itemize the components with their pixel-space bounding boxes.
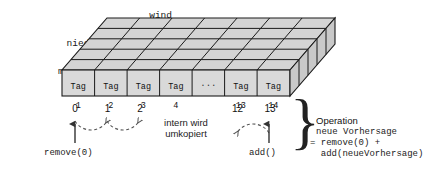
index-label-1: 1 (98, 103, 118, 114)
cell-label-line1: Tag (168, 82, 183, 92)
operation-code-line-3: add(neueVorhersage) (310, 149, 423, 161)
cell-label-line1: Tag (103, 82, 118, 92)
shift-arcs-right (237, 124, 269, 133)
operation-code-line-1: neue Vorhersage (316, 127, 397, 139)
slab-top-face (62, 18, 335, 70)
shift-arcs-left (75, 121, 139, 130)
cell-label-line1: Tag (233, 82, 248, 92)
diagram-canvas: wind luft niederschlag maxTemp minTemp (0, 0, 435, 170)
operation-code-line-2: = remove(0) + (310, 138, 380, 150)
index-label-0: 0 (65, 103, 85, 114)
operation-title: Operation (316, 115, 358, 126)
internal-copy-note: intern wird umkopiert (145, 117, 227, 139)
shift-arc-1-to-0 (75, 121, 107, 130)
shift-arc-13-to-12 (237, 124, 269, 133)
remove-call-label: remove(0) (44, 148, 93, 158)
add-call-label: add() (249, 148, 276, 158)
cell-label-line1: Tag (136, 82, 151, 92)
cell-label-line2: 4 (173, 101, 178, 111)
cell-caption-ellipsis: ... (192, 79, 225, 89)
shift-arc-2-to-1 (107, 121, 139, 130)
cell-caption: Tag 4 (160, 73, 193, 111)
cell-label-line1: Tag (266, 82, 281, 92)
index-label-2: 2 (130, 103, 150, 114)
cell-label-line1: Tag (71, 82, 86, 92)
index-label-12: 12 (228, 103, 248, 114)
index-label-13: 13 (260, 103, 280, 114)
